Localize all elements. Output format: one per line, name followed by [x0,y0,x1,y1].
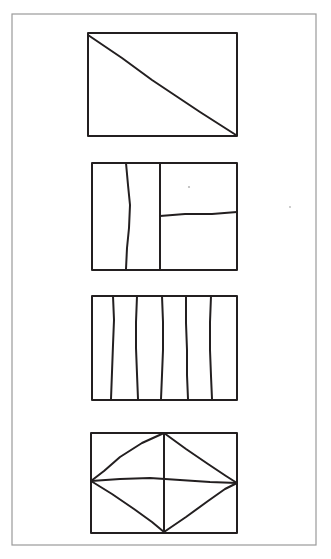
worksheet-page [0,0,331,559]
paper-speck [188,186,190,188]
figures-canvas [0,0,331,559]
page-background [0,0,331,559]
paper-speck [289,206,291,208]
